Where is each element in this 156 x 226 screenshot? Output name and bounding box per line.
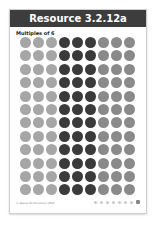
- counter-dot: [111, 184, 122, 195]
- counter-dot: [33, 158, 44, 169]
- counter-dot: [111, 144, 122, 155]
- counter-dot: [33, 77, 44, 88]
- counter-dot: [98, 91, 109, 102]
- counter-dot: [85, 50, 96, 61]
- counter-dot: [111, 117, 122, 128]
- counter-dot: [85, 158, 96, 169]
- counter-dot: [98, 104, 109, 115]
- page-dot[interactable]: [118, 201, 121, 204]
- counter-dot: [20, 171, 31, 182]
- counter-dot: [124, 131, 135, 142]
- page-navigation: [94, 200, 140, 204]
- counter-dot: [111, 37, 122, 48]
- page-dot[interactable]: [94, 201, 97, 204]
- resource-page: Resource 3.2.12a Multiples of 6 © Assess…: [9, 9, 147, 214]
- counter-dot: [46, 184, 57, 195]
- counter-dot: [46, 131, 57, 142]
- page-dot[interactable]: [100, 201, 103, 204]
- counter-dot: [59, 64, 70, 75]
- page-dot[interactable]: [106, 201, 109, 204]
- counter-dot: [72, 64, 83, 75]
- counter-dot: [72, 131, 83, 142]
- counter-dot: [20, 50, 31, 61]
- counter-dot: [124, 50, 135, 61]
- counter-dot: [98, 144, 109, 155]
- counter-dot: [46, 77, 57, 88]
- counter-dot: [124, 37, 135, 48]
- counter-dot: [124, 117, 135, 128]
- counter-dot: [46, 117, 57, 128]
- counter-dot: [59, 184, 70, 195]
- counter-dot: [72, 158, 83, 169]
- counter-dot: [46, 144, 57, 155]
- dot-grid: [20, 37, 136, 198]
- counter-dot: [33, 91, 44, 102]
- counter-dot: [72, 184, 83, 195]
- counter-dot: [85, 64, 96, 75]
- counter-dot: [72, 117, 83, 128]
- counter-dot: [111, 158, 122, 169]
- counter-dot: [20, 158, 31, 169]
- counter-dot: [33, 144, 44, 155]
- counter-dot: [46, 50, 57, 61]
- counter-dot: [111, 77, 122, 88]
- counter-dot: [85, 104, 96, 115]
- counter-dot: [59, 131, 70, 142]
- counter-dot: [98, 171, 109, 182]
- counter-dot: [85, 131, 96, 142]
- counter-dot: [59, 158, 70, 169]
- logo-icon: [136, 200, 140, 204]
- counter-dot: [46, 64, 57, 75]
- counter-dot: [33, 37, 44, 48]
- counter-dot: [72, 104, 83, 115]
- page-dot[interactable]: [130, 201, 133, 204]
- counter-dot: [20, 77, 31, 88]
- counter-dot: [111, 91, 122, 102]
- counter-dot: [124, 77, 135, 88]
- counter-dot: [124, 158, 135, 169]
- counter-dot: [33, 117, 44, 128]
- page-title: Resource 3.2.12a: [29, 13, 127, 24]
- counter-dot: [46, 171, 57, 182]
- counter-dot: [72, 144, 83, 155]
- counter-dot: [111, 104, 122, 115]
- counter-dot: [98, 64, 109, 75]
- counter-dot: [33, 104, 44, 115]
- counter-dot: [33, 64, 44, 75]
- page-dot[interactable]: [124, 201, 127, 204]
- counter-dot: [20, 184, 31, 195]
- counter-dot: [46, 37, 57, 48]
- counter-dot: [72, 171, 83, 182]
- counter-dot: [124, 104, 135, 115]
- counter-dot: [46, 91, 57, 102]
- counter-dot: [124, 91, 135, 102]
- counter-dot: [20, 144, 31, 155]
- counter-dot: [33, 131, 44, 142]
- counter-dot: [85, 91, 96, 102]
- counter-dot: [124, 144, 135, 155]
- counter-dot: [33, 171, 44, 182]
- counter-dot: [33, 184, 44, 195]
- page-dot[interactable]: [112, 201, 115, 204]
- counter-dot: [111, 50, 122, 61]
- counter-dot: [72, 37, 83, 48]
- counter-dot: [111, 171, 122, 182]
- counter-dot: [59, 37, 70, 48]
- counter-dot: [124, 64, 135, 75]
- counter-dot: [85, 171, 96, 182]
- counter-dot: [59, 171, 70, 182]
- counter-dot: [59, 50, 70, 61]
- counter-dot: [85, 77, 96, 88]
- counter-dot: [85, 144, 96, 155]
- counter-dot: [33, 50, 44, 61]
- counter-dot: [20, 131, 31, 142]
- counter-dot: [46, 104, 57, 115]
- counter-dot: [20, 64, 31, 75]
- counter-dot: [85, 117, 96, 128]
- counter-dot: [59, 91, 70, 102]
- counter-dot: [124, 184, 135, 195]
- counter-dot: [98, 77, 109, 88]
- counter-dot: [111, 131, 122, 142]
- counter-dot: [59, 144, 70, 155]
- counter-dot: [20, 91, 31, 102]
